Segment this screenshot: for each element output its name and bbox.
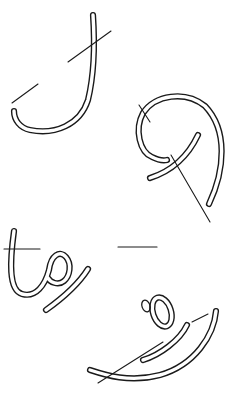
stroke-outline [143,325,187,360]
glyph-1-hook [12,15,111,131]
glyph-2-loop [139,96,222,222]
guide-line [171,155,210,222]
guide-line [192,314,208,322]
guide-line [68,31,111,62]
stroke-diagram [0,0,229,393]
stroke-inner [139,96,222,204]
stroke-outline [11,231,70,295]
guide-line [12,84,38,103]
stroke-inner [14,15,94,131]
glyph-3-loop-tail [4,231,157,310]
glyph-4-loop-swash [90,295,216,383]
glyph-layer [4,15,222,383]
